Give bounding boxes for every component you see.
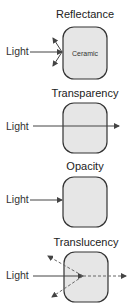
panel-translucency: Translucency Light <box>6 236 126 302</box>
panel-title: Reflectance <box>56 8 114 20</box>
light-interaction-diagram: Reflectance Ceramic Light Transparency L… <box>0 0 135 307</box>
material-label: Ceramic <box>72 50 99 57</box>
light-label: Light <box>6 120 29 132</box>
material-box <box>63 103 107 153</box>
reflected-arrow-up <box>53 38 62 52</box>
panel-title: Opacity <box>66 160 104 172</box>
material-box <box>63 177 107 227</box>
panel-opacity: Opacity Light <box>6 160 107 227</box>
panel-reflectance: Reflectance Ceramic Light <box>6 8 114 79</box>
light-label: Light <box>6 269 29 281</box>
panel-title: Transparency <box>52 87 119 99</box>
panel-transparency: Transparency Light <box>6 87 119 153</box>
light-label: Light <box>6 193 29 205</box>
reflected-arrow-down <box>53 52 62 66</box>
panel-title: Translucency <box>53 236 119 248</box>
material-box <box>64 252 108 302</box>
light-label: Light <box>6 45 29 57</box>
